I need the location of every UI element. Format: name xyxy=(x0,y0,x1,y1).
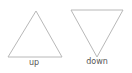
diagram-canvas xyxy=(0,0,132,73)
triangle-up-label: up xyxy=(24,59,44,67)
triangle-down-label: down xyxy=(84,58,110,66)
triangle-down-shape xyxy=(71,10,123,57)
triangle-up-shape xyxy=(8,11,62,57)
